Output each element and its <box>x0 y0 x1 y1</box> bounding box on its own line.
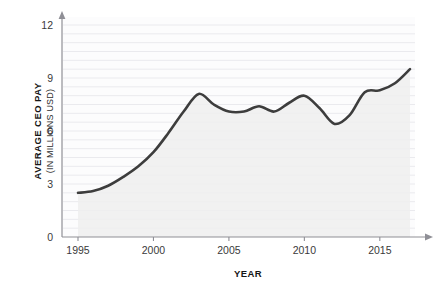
x-tick-label: 2000 <box>142 244 166 256</box>
x-tick-label: 2005 <box>217 244 241 256</box>
y-axis-subtitle: (IN MILLIONS USD) <box>45 89 55 173</box>
x-axis-arrowhead <box>425 234 433 241</box>
y-axis-arrowhead <box>59 11 66 19</box>
x-axis-tick-labels: 19952000200520102015 <box>66 244 391 256</box>
y-tick-label: 12 <box>41 19 53 31</box>
x-axis-title: YEAR <box>234 268 262 279</box>
x-tick-label: 2010 <box>293 244 317 256</box>
chart-canvas: 19952000200520102015 036912 AVERAGE CEO … <box>0 0 443 294</box>
x-tick-label: 2015 <box>368 244 392 256</box>
y-tick-label: 3 <box>47 178 53 190</box>
y-tick-label: 0 <box>47 231 53 243</box>
x-axis-ticks <box>78 237 380 241</box>
x-tick-label: 1995 <box>66 244 90 256</box>
y-axis-title: AVERAGE CEO PAY <box>32 82 43 179</box>
y-tick-label: 9 <box>47 72 53 84</box>
ceo-pay-line-chart: 19952000200520102015 036912 AVERAGE CEO … <box>0 0 443 294</box>
